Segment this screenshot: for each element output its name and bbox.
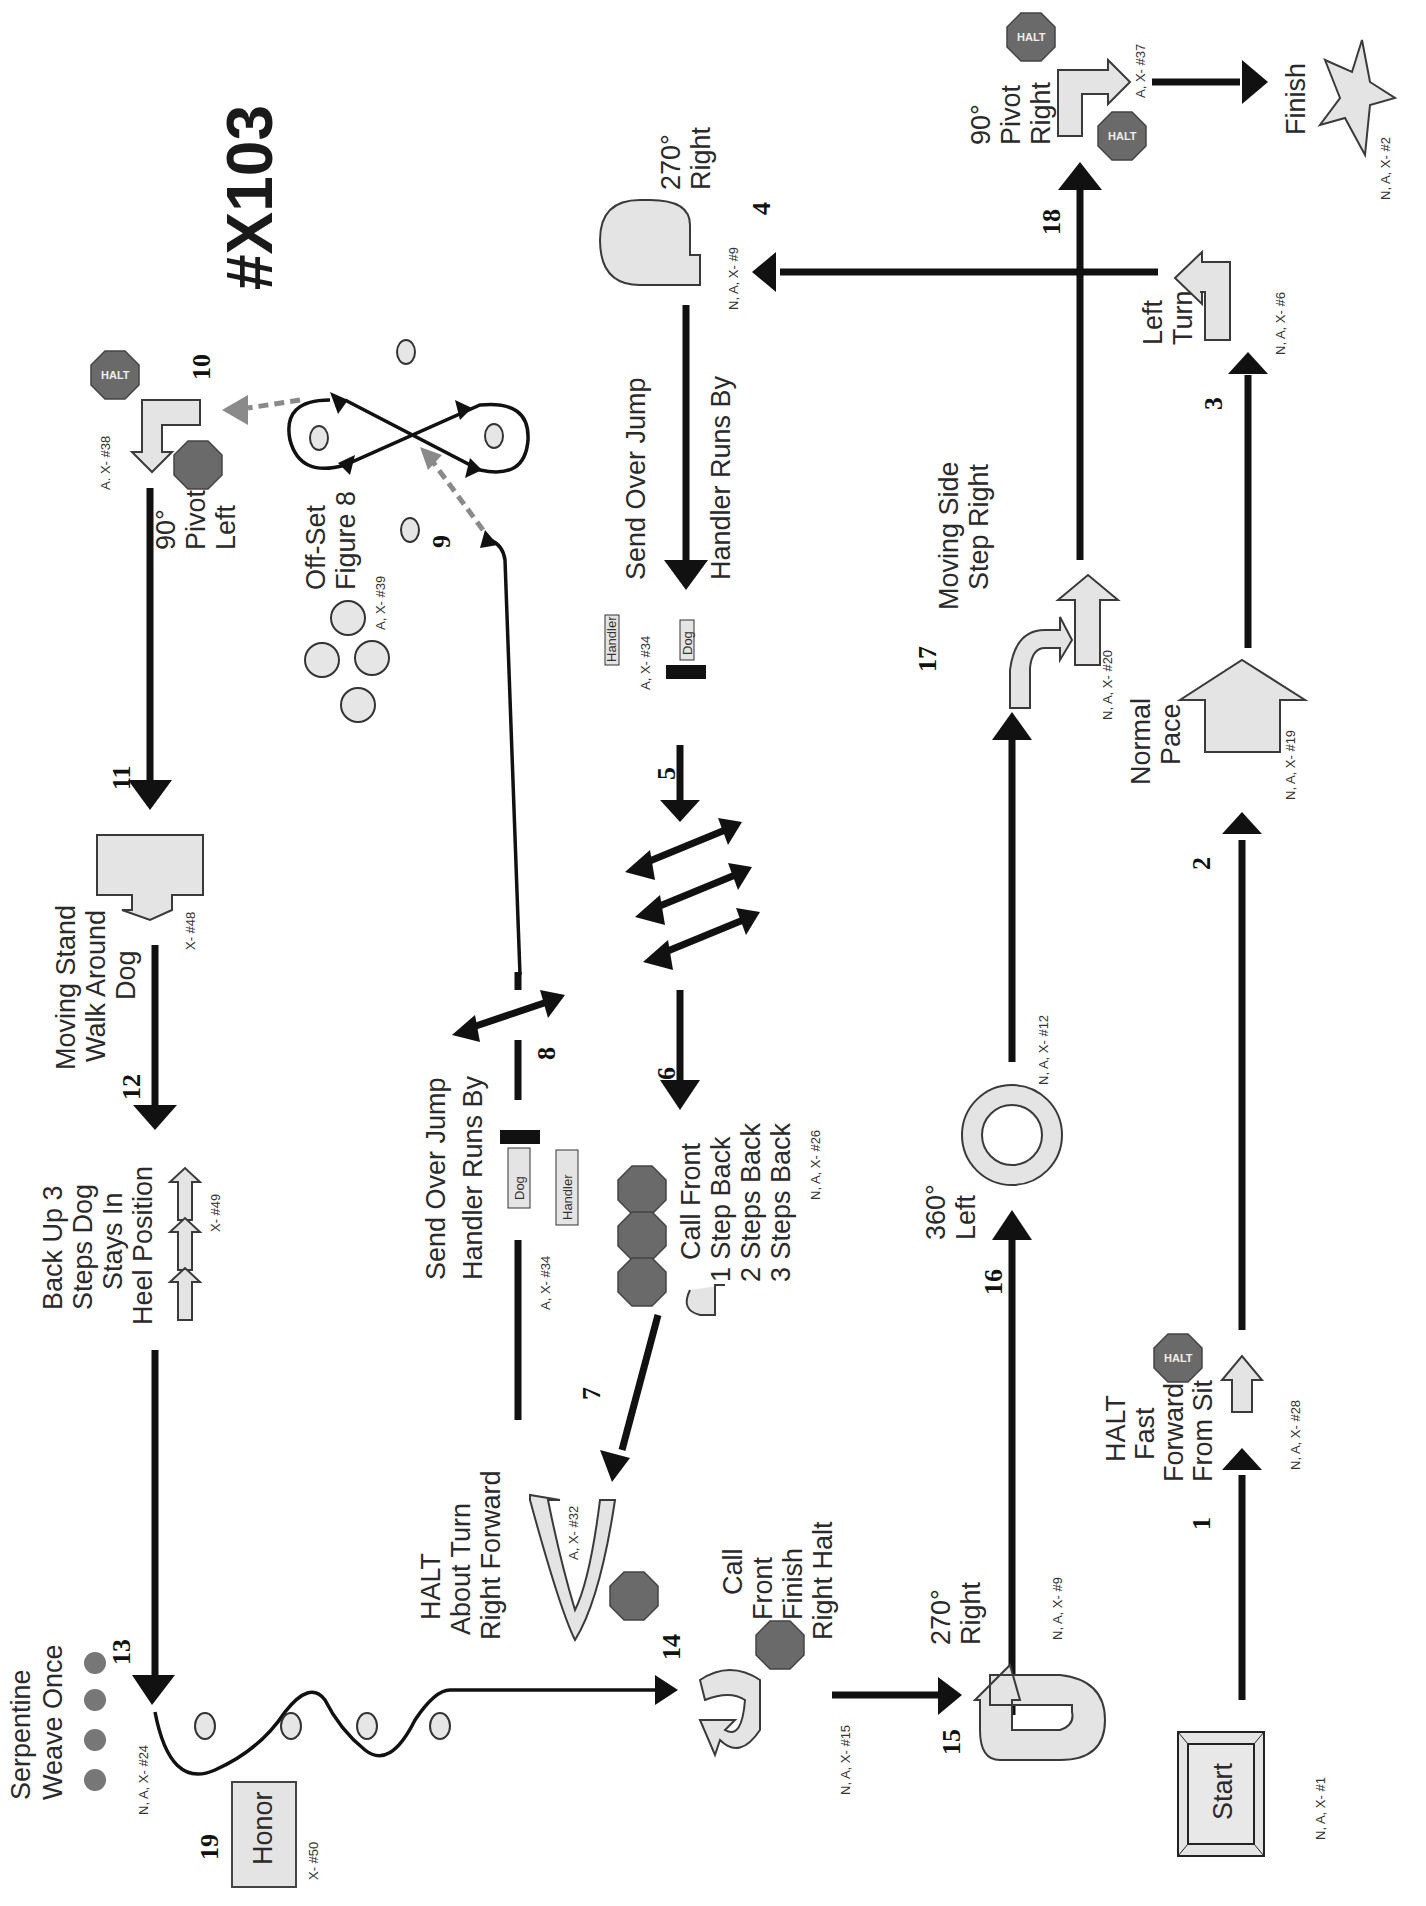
start-sign: Start N, A, X- #1 (1178, 1732, 1328, 1856)
svg-text:18: 18 (1037, 209, 1066, 235)
halt-sign-icon: HALT (1154, 1334, 1202, 1382)
svg-text:11: 11 (107, 765, 136, 790)
path-segment-1 (1222, 1448, 1262, 1700)
svg-text:N, A, X- #2: N, A, X- #2 (1378, 137, 1393, 200)
start-code: N, A, X- #1 (1313, 1777, 1328, 1840)
svg-text:3: 3 (1199, 397, 1228, 410)
station-number: 1 (1187, 1517, 1216, 1530)
svg-text:15: 15 (937, 1729, 966, 1755)
halt-sign-icon: HALT (1098, 112, 1146, 160)
path-segment-send-jump-top (664, 305, 708, 590)
svg-text:Right: Right (686, 126, 716, 190)
svg-text:3 Steps Back: 3 Steps Back (766, 1122, 796, 1282)
call-front-finish-icon (700, 1670, 760, 1755)
svg-text:Pivot: Pivot (996, 84, 1026, 145)
svg-text:90°: 90° (151, 509, 181, 550)
serpentine-path (155, 1675, 678, 1774)
svg-text:Handler: Handler (560, 1174, 575, 1220)
svg-text:A, X- #32: A, X- #32 (566, 1506, 581, 1560)
path-segment-finish (1152, 60, 1268, 104)
svg-text:Moving Stand: Moving Stand (51, 905, 81, 1070)
svg-text:Send Over Jump: Send Over Jump (621, 377, 651, 580)
svg-text:360°: 360° (921, 1184, 951, 1240)
svg-text:Step Right: Step Right (964, 463, 994, 590)
svg-text:Finish: Finish (778, 1548, 808, 1620)
svg-text:4: 4 (747, 202, 776, 215)
cone-icon (195, 1713, 215, 1739)
svg-text:A, X- #34: A, X- #34 (638, 636, 653, 690)
svg-text:Dog: Dog (680, 631, 695, 655)
halt-sign-icon (618, 1258, 666, 1306)
svg-text:Stays In: Stays In (98, 1192, 128, 1290)
svg-text:N, A, X- #24: N, A, X- #24 (136, 1745, 151, 1815)
station-5: Send Over Jump Handler Runs By 5 Dog Han… (604, 375, 736, 780)
svg-text:270°: 270° (926, 1589, 956, 1645)
station-3: 3 Left Turn N, A, X- #6 (1138, 252, 1288, 410)
svg-text:270°: 270° (656, 134, 686, 190)
handler-arrow-icon: Handler (604, 615, 619, 665)
side-step-arrow-icon (1010, 617, 1072, 708)
svg-text:12: 12 (117, 1074, 146, 1100)
svg-text:Serpentine: Serpentine (6, 1669, 36, 1800)
svg-text:HALT: HALT (1017, 31, 1046, 43)
svg-text:X- #49: X- #49 (208, 1194, 223, 1232)
svg-text:Left: Left (951, 1194, 981, 1240)
svg-text:Finish: Finish (1281, 63, 1311, 135)
svg-text:N, A, X- #9: N, A, X- #9 (726, 247, 741, 310)
svg-text:6: 6 (652, 1067, 681, 1080)
svg-text:Moving Side: Moving Side (934, 461, 964, 610)
svg-text:X- #48: X- #48 (183, 912, 198, 950)
svg-text:A. X- #38: A. X- #38 (98, 436, 113, 490)
station-7: 7 HALT About Turn Right Forward A, X- #3… (416, 1387, 658, 1640)
start-label: Start (1208, 1762, 1238, 1820)
svg-text:Dog: Dog (111, 950, 141, 1000)
station-4: 4 270° Right N, A, X- #9 (600, 126, 776, 310)
svg-text:N, A, X- #9: N, A, X- #9 (1050, 1577, 1065, 1640)
svg-text:19: 19 (195, 1834, 224, 1860)
halt-sign-icon (610, 1572, 658, 1620)
svg-text:X- #50: X- #50 (306, 1842, 321, 1880)
halt-sign-icon: HALT (91, 351, 139, 399)
svg-text:HALT: HALT (101, 369, 130, 381)
svg-text:16: 16 (979, 1269, 1008, 1295)
svg-text:HALT: HALT (1108, 130, 1137, 142)
svg-text:Pivot: Pivot (181, 489, 211, 550)
cone-icon (84, 1652, 106, 1674)
path-segment-2 (1222, 812, 1262, 1330)
svg-text:Walk Around: Walk Around (81, 910, 111, 1062)
svg-text:10: 10 (187, 354, 216, 380)
svg-text:Left: Left (211, 504, 241, 550)
svg-text:Steps Dog: Steps Dog (68, 1184, 98, 1310)
turn-270-right-icon (975, 1665, 1105, 1760)
svg-text:Normal: Normal (1126, 698, 1156, 785)
svg-text:Left: Left (1138, 299, 1168, 345)
svg-text:Call Front: Call Front (676, 1142, 706, 1260)
station-6: 6 Call Front 1 Step Back 2 Steps Back 3 … (618, 1067, 823, 1315)
jump-icon: Dog (666, 620, 706, 679)
station-17: 17 Moving Side Step Right N, A, X- #20 (913, 461, 1118, 720)
svg-text:Right: Right (956, 1581, 986, 1645)
cone-icon (430, 1713, 450, 1739)
station-11: 11 Moving Stand Walk Around Dog X- #48 (51, 765, 203, 1070)
station-2: 2 Normal Pace N, A, X- #19 (1126, 660, 1305, 870)
svg-text:About Turn: About Turn (446, 1503, 476, 1635)
path-segment-5 (660, 745, 700, 822)
svg-text:2 Steps Back: 2 Steps Back (736, 1122, 766, 1282)
svg-text:Turn: Turn (1168, 290, 1198, 345)
svg-text:A, X- #39: A, X- #39 (373, 576, 388, 630)
station-19: 19 Honor X- #50 (195, 1782, 321, 1887)
backup-arrow-icon (170, 1268, 200, 1320)
svg-text:N, A, X- #28: N, A, X- #28 (1288, 1400, 1303, 1470)
svg-text:17: 17 (913, 646, 942, 672)
call-front-arrow-icon (687, 1285, 725, 1315)
svg-text:5: 5 (652, 767, 681, 780)
svg-text:Send Over Jump: Send Over Jump (421, 1077, 451, 1280)
cone-icon (84, 1769, 106, 1791)
path-segment-14 (832, 1677, 962, 1715)
backup-arrow-icon (170, 1168, 200, 1220)
finish-sign: Finish N, A, X- #2 (1281, 40, 1395, 200)
svg-text:Figure 8: Figure 8 (331, 491, 361, 590)
cone-icon (84, 1689, 106, 1711)
svg-text:N, A, X- #12: N, A, X- #12 (1036, 1015, 1051, 1085)
figure-eight (222, 392, 528, 478)
